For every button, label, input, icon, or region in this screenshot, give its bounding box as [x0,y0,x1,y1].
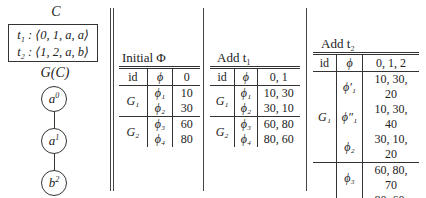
separator [113,8,114,191]
graph-edge [54,154,55,170]
graph-label: G(C) [30,65,80,81]
graph-edge [54,112,55,128]
table-add-t2: idϕ0, 1, 2 G₁ϕ′₁10, 30, 20 ϕ″₁10, 30, 40… [313,52,419,198]
table-title-add-t2: Add t₂ [321,36,355,52]
separator [110,8,111,191]
constraint-box: t₁ : ⟨0, 1, a, a⟩ t₂ : ⟨1, 2, a, b⟩ [8,24,98,62]
table-initial: idϕ0 G₁ϕ₁10 ϕ₂30 G₂ϕ₃60 ϕ₄80 [119,66,200,147]
table-add-t1: idϕ0, 1 G₁ϕ₁10, 30 ϕ₂30, 10 G₂ϕ₃60, 80 ϕ… [210,66,300,147]
graph-node-a1: a1 [41,128,67,154]
graph-node-b2: b2 [41,170,67,196]
table-title-initial: Initial Φ [122,50,166,66]
tuple-t1: t₁ : ⟨0, 1, a, a⟩ [9,27,97,44]
tuple-t2: t₂ : ⟨1, 2, a, b⟩ [9,44,97,61]
table-title-add-t1: Add t₁ [217,50,251,66]
separator [203,8,204,191]
constraint-label: C [46,4,66,20]
graph-node-a0: a0 [41,86,67,112]
separator [306,8,307,191]
